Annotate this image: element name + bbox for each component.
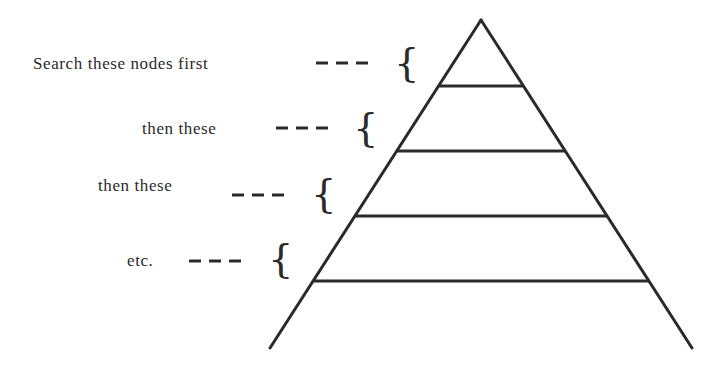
pyramid-right-edge	[481, 20, 692, 348]
label-group-1: Search these nodes first {	[33, 39, 419, 85]
label-text-3: then these	[98, 176, 172, 195]
label-text-2: then these	[142, 119, 216, 138]
brace-icon-4: {	[268, 235, 293, 281]
label-group-2: then these {	[142, 104, 378, 150]
brace-icon-3: {	[311, 170, 336, 216]
brace-icon-2: {	[353, 104, 378, 150]
pyramid-diagram: Search these nodes first { then these { …	[0, 0, 723, 367]
label-group-3: then these {	[98, 170, 336, 216]
pyramid-left-edge	[270, 20, 481, 348]
brace-icon-1: {	[394, 39, 419, 85]
label-group-4: etc. {	[127, 235, 293, 281]
label-text-4: etc.	[127, 251, 153, 270]
label-text-1: Search these nodes first	[33, 54, 208, 73]
